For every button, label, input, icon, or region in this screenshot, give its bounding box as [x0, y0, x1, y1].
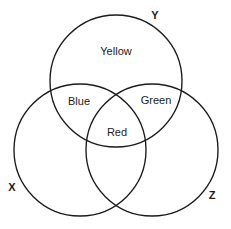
set-label-z: Z [209, 189, 216, 201]
venn-diagram-figure: Y X Z Yellow Blue Green Red [0, 0, 231, 229]
venn-diagram-canvas: Y X Z Yellow Blue Green Red [0, 0, 231, 229]
region-label-yellow: Yellow [100, 45, 131, 57]
set-label-y: Y [151, 9, 159, 21]
region-label-red: Red [107, 126, 127, 138]
set-label-x: X [8, 181, 16, 193]
region-label-blue: Blue [68, 95, 90, 107]
region-label-green: Green [141, 94, 172, 106]
